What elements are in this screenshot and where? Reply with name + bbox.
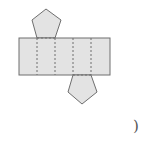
bottom-pentagon-face xyxy=(68,75,97,104)
answer-closing-paren: ) xyxy=(133,119,139,134)
top-pentagon-face xyxy=(32,9,61,38)
prism-net-diagram xyxy=(0,0,145,144)
lateral-faces-rectangle xyxy=(19,38,110,75)
